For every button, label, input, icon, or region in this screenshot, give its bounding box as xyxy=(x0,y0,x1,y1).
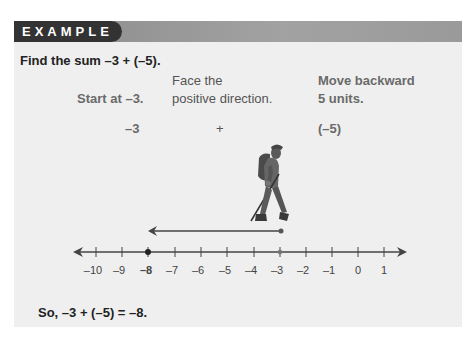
svg-text:0: 0 xyxy=(355,264,361,276)
number-line-diagram: –10 –9 –8 –7 –6 –5 –4 –3 –2 –1 0 1 xyxy=(0,0,473,337)
svg-text:–4: –4 xyxy=(245,264,257,276)
svg-text:–2: –2 xyxy=(297,264,309,276)
svg-text:–5: –5 xyxy=(219,264,231,276)
hiker-icon xyxy=(251,145,289,222)
svg-text:–9: –9 xyxy=(113,264,125,276)
number-line: –10 –9 –8 –7 –6 –5 –4 –3 –2 –1 0 1 xyxy=(73,247,407,276)
end-point xyxy=(145,249,151,255)
svg-text:–3: –3 xyxy=(271,264,283,276)
svg-text:–8: –8 xyxy=(140,264,152,276)
svg-text:1: 1 xyxy=(381,264,387,276)
svg-text:–1: –1 xyxy=(323,264,335,276)
svg-text:–6: –6 xyxy=(192,264,204,276)
movement-arrow xyxy=(148,226,284,236)
svg-text:–7: –7 xyxy=(166,264,178,276)
svg-text:–10: –10 xyxy=(84,264,102,276)
start-point xyxy=(278,250,283,255)
